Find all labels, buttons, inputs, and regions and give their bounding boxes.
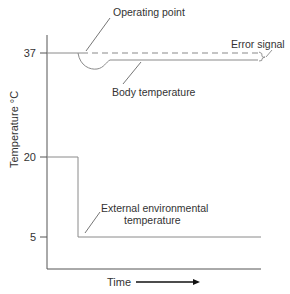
external-temperature-label-line1: External environmental bbox=[101, 202, 208, 214]
error-signal-leader bbox=[266, 50, 272, 57]
x-axis-label: Time bbox=[107, 276, 131, 288]
y-axis-label: Temperature °C bbox=[8, 91, 20, 168]
error-signal-label: Error signal bbox=[231, 38, 285, 50]
body-temperature-leader bbox=[123, 62, 141, 84]
external-temperature-leader bbox=[85, 212, 100, 233]
tick-label-5: 5 bbox=[16, 231, 36, 243]
operating-point-leader bbox=[86, 18, 110, 51]
body-temperature-label: Body temperature bbox=[112, 86, 195, 98]
error-signal-bracket bbox=[259, 52, 265, 61]
time-arrow-head-icon bbox=[193, 279, 200, 285]
operating-point-label: Operating point bbox=[113, 6, 185, 18]
tick-label-37: 37 bbox=[16, 47, 36, 59]
external-temperature-label-line2: temperature bbox=[124, 214, 181, 226]
body-temperature-curve bbox=[78, 53, 258, 69]
